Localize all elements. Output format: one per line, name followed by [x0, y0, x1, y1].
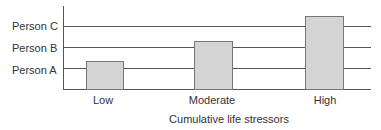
x-axis-title: Cumulative life stressors	[169, 113, 289, 125]
bar-high	[306, 17, 344, 90]
bar-moderate	[195, 42, 233, 90]
y-tick-person-c: Person C	[12, 20, 58, 32]
y-tick-person-a: Person A	[12, 64, 57, 76]
x-tick-low: Low	[93, 94, 113, 106]
x-tick-high: High	[314, 94, 337, 106]
x-tick-moderate: Moderate	[189, 94, 235, 106]
bar-low	[87, 62, 124, 90]
y-tick-person-b: Person B	[12, 42, 57, 54]
